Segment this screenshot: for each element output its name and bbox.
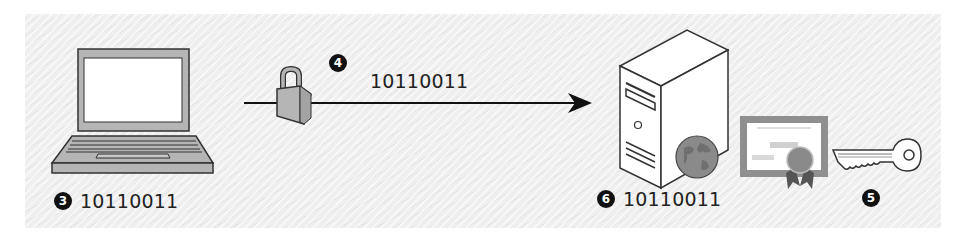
transmission-step: 4 [329, 54, 347, 72]
transmission-data: 10110011 [370, 70, 468, 92]
step-badge-3: 3 [54, 192, 72, 210]
server-label: 6 10110011 [597, 188, 721, 210]
certificate-icon [740, 116, 828, 189]
step-badge-5: 5 [862, 189, 880, 207]
globe-icon [676, 136, 718, 178]
padlock-icon [277, 69, 311, 124]
laptop-data: 10110011 [80, 190, 178, 212]
server-data: 10110011 [623, 188, 721, 210]
step-badge-6: 6 [597, 190, 615, 208]
key-label: 5 [862, 189, 880, 207]
step-badge-4: 4 [329, 54, 347, 72]
laptop-label: 3 10110011 [54, 190, 178, 212]
key-icon [833, 139, 921, 171]
transmission-label: 10110011 [370, 70, 468, 92]
laptop-icon [52, 49, 213, 173]
